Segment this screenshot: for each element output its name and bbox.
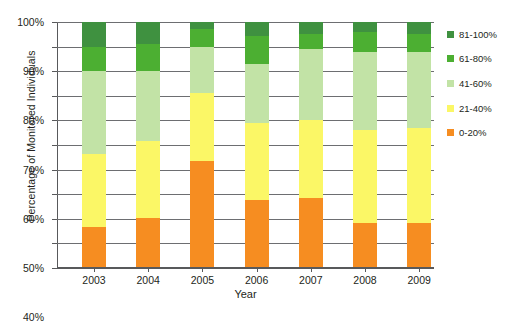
x-axis-line — [57, 267, 434, 268]
x-axis-title: Year — [57, 288, 434, 300]
stacked-bar-chart: Percentage of Monitored Individuals 0%10… — [0, 0, 520, 326]
bar-segment[interactable] — [136, 141, 160, 217]
bar-segment[interactable] — [407, 128, 431, 223]
bars-layer — [57, 22, 434, 268]
chart-legend: 81-100%61-80%41-60%21-40%0-20% — [447, 22, 520, 145]
x-axis-tick — [202, 268, 203, 272]
legend-label: 41-60% — [459, 78, 492, 89]
bar-segment[interactable] — [136, 22, 160, 44]
bar-segment[interactable] — [299, 120, 323, 197]
bar-segment[interactable] — [299, 198, 323, 268]
x-axis-tick — [419, 268, 420, 272]
legend-item[interactable]: 21-40% — [447, 96, 520, 121]
legend-swatch-icon — [447, 105, 454, 112]
gridline — [57, 268, 434, 269]
bar-segment[interactable] — [136, 71, 160, 141]
bar-group[interactable] — [136, 22, 160, 268]
bar-segment[interactable] — [82, 154, 106, 228]
bar-segment[interactable] — [190, 29, 214, 46]
bar-segment[interactable] — [299, 49, 323, 120]
y-axis-tick-label: 100% — [17, 16, 44, 28]
bar-segment[interactable] — [407, 34, 431, 51]
legend-label: 0-20% — [459, 127, 486, 138]
bar-group[interactable] — [82, 22, 106, 268]
legend-swatch-icon — [447, 80, 454, 87]
bar-segment[interactable] — [353, 22, 377, 32]
bar-segment[interactable] — [407, 22, 431, 34]
x-axis-tick-label: 2007 — [299, 274, 322, 286]
bar-segment[interactable] — [136, 218, 160, 268]
legend-item[interactable]: 0-20% — [447, 120, 520, 145]
x-axis-tick — [257, 268, 258, 272]
bar-segment[interactable] — [82, 227, 106, 268]
x-axis-tick — [148, 268, 149, 272]
x-axis-tick-label: 2009 — [408, 274, 431, 286]
x-axis-tick-label: 2008 — [353, 274, 376, 286]
bar-segment[interactable] — [353, 52, 377, 131]
bar-segment[interactable] — [299, 22, 323, 34]
bar-segment[interactable] — [353, 32, 377, 52]
bar-segment[interactable] — [407, 223, 431, 269]
x-axis-tick — [94, 268, 95, 272]
bar-group[interactable] — [353, 22, 377, 268]
bar-group[interactable] — [407, 22, 431, 268]
legend-item[interactable]: 61-80% — [447, 47, 520, 72]
plot-area: 0%10%20%30%40%50%60%70%80%90%100% 200320… — [57, 22, 434, 268]
y-axis-tick-label: 60% — [23, 213, 44, 225]
legend-label: 21-40% — [459, 103, 492, 114]
y-axis-tick-label: 90% — [23, 65, 44, 77]
bar-segment[interactable] — [407, 52, 431, 128]
legend-item[interactable]: 81-100% — [447, 22, 520, 47]
legend-swatch-icon — [447, 129, 454, 136]
bar-segment[interactable] — [136, 44, 160, 71]
bar-segment[interactable] — [299, 34, 323, 49]
x-axis-tick — [311, 268, 312, 272]
bar-segment[interactable] — [245, 64, 269, 123]
bar-segment[interactable] — [190, 47, 214, 94]
legend-label: 61-80% — [459, 53, 492, 64]
y-axis-tick-label: 40% — [23, 311, 44, 323]
y-axis-tick: 0% — [52, 268, 57, 269]
legend-swatch-icon — [447, 31, 454, 38]
bar-segment[interactable] — [190, 161, 214, 268]
bar-segment[interactable] — [353, 223, 377, 269]
bar-group[interactable] — [245, 22, 269, 268]
x-axis-tick-label: 2003 — [82, 274, 105, 286]
bar-segment[interactable] — [190, 93, 214, 161]
x-axis-tick-label: 2004 — [137, 274, 160, 286]
x-axis-tick-label: 2005 — [191, 274, 214, 286]
bar-segment[interactable] — [245, 123, 269, 200]
x-axis-tick-label: 2006 — [245, 274, 268, 286]
bar-segment[interactable] — [245, 36, 269, 64]
bar-segment[interactable] — [245, 200, 269, 268]
bar-segment[interactable] — [82, 71, 106, 153]
bar-group[interactable] — [190, 22, 214, 268]
y-axis-tick-label: 50% — [23, 262, 44, 274]
bar-segment[interactable] — [82, 22, 106, 47]
bar-segment[interactable] — [353, 130, 377, 222]
bar-group[interactable] — [299, 22, 323, 268]
legend-item[interactable]: 41-60% — [447, 71, 520, 96]
y-axis-tick-label: 70% — [23, 164, 44, 176]
bar-segment[interactable] — [245, 22, 269, 36]
bar-segment[interactable] — [82, 47, 106, 72]
x-axis-tick — [365, 268, 366, 272]
bar-segment[interactable] — [190, 22, 214, 29]
y-axis-tick-label: 80% — [23, 114, 44, 126]
legend-swatch-icon — [447, 55, 454, 62]
legend-label: 81-100% — [459, 29, 497, 40]
